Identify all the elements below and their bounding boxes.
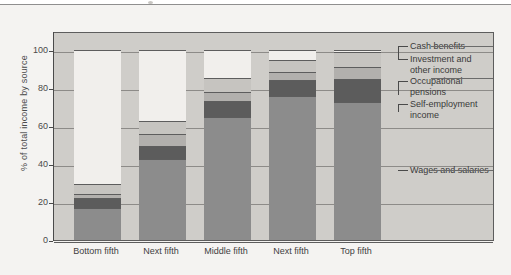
segment-occupational-pensions[interactable] xyxy=(139,134,186,146)
legend-label-cont: other income xyxy=(410,65,472,76)
segment-self-employment-income[interactable] xyxy=(74,198,121,208)
y-axis-title: % of total income by source xyxy=(19,33,29,193)
y-tick-label-60: 60 xyxy=(18,121,48,131)
bar-top-fifth-4[interactable] xyxy=(334,50,381,240)
x-label-4: Top fifth xyxy=(306,246,406,256)
segment-wages-and-salaries[interactable] xyxy=(204,117,251,241)
legend-item-1[interactable]: Investment andother income xyxy=(410,54,472,75)
legend-leader-line-3 xyxy=(398,104,408,105)
segment-self-employment-income[interactable] xyxy=(204,101,251,116)
segment-self-employment-income[interactable] xyxy=(139,146,186,159)
segment-wages-and-salaries[interactable] xyxy=(74,208,121,240)
y-tick-label-100: 100 xyxy=(18,45,48,55)
segment-investment-and-other-income[interactable] xyxy=(204,78,251,92)
legend-label-cont: income xyxy=(410,110,478,121)
legend-bracket-1 xyxy=(398,81,399,95)
legend-right-rule-1 xyxy=(431,78,493,79)
legend-label-cont: pensions xyxy=(410,87,463,98)
legend-bracket-2 xyxy=(398,104,399,112)
segment-wages-and-salaries[interactable] xyxy=(269,96,316,240)
legend-bracket-0 xyxy=(398,46,399,60)
segment-occupational-pensions[interactable] xyxy=(204,92,251,102)
legend-right-rule-2 xyxy=(431,170,493,171)
segment-investment-and-other-income[interactable] xyxy=(139,121,186,133)
segment-cash-benefits[interactable] xyxy=(74,50,121,184)
scan-rule-line xyxy=(0,4,511,5)
gridline-0 xyxy=(54,242,493,243)
legend-label: Investment and xyxy=(410,54,472,65)
segment-self-employment-income[interactable] xyxy=(269,80,316,95)
bar-next-fifth-3[interactable] xyxy=(269,50,316,240)
scan-artifact-speck xyxy=(148,1,153,4)
segment-occupational-pensions[interactable] xyxy=(74,194,121,198)
segment-investment-and-other-income[interactable] xyxy=(74,184,121,194)
legend-label: Self-employment xyxy=(410,99,478,110)
segment-cash-benefits[interactable] xyxy=(139,50,186,121)
segment-investment-and-other-income[interactable] xyxy=(269,60,316,71)
segment-self-employment-income[interactable] xyxy=(334,79,381,102)
bar-next-fifth-1[interactable] xyxy=(139,50,186,240)
segment-cash-benefits[interactable] xyxy=(334,50,381,52)
segment-wages-and-salaries[interactable] xyxy=(334,102,381,240)
legend-leader-line-0 xyxy=(398,46,408,47)
segment-occupational-pensions[interactable] xyxy=(269,72,316,81)
legend-leader-line-4 xyxy=(398,170,408,171)
legend-leader-line-2 xyxy=(398,81,408,82)
y-tick-label-0: 0 xyxy=(18,235,48,245)
y-tick-label-80: 80 xyxy=(18,83,48,93)
legend-right-rule-0 xyxy=(431,46,493,47)
legend-item-3[interactable]: Self-employmentincome xyxy=(410,99,478,120)
bar-middle-fifth-2[interactable] xyxy=(204,50,251,240)
y-tick-label-40: 40 xyxy=(18,159,48,169)
segment-cash-benefits[interactable] xyxy=(269,50,316,60)
y-axis-line xyxy=(53,32,54,241)
y-tick-label-20: 20 xyxy=(18,197,48,207)
legend-item-2[interactable]: Occupationalpensions xyxy=(410,76,463,97)
segment-investment-and-other-income[interactable] xyxy=(334,52,381,67)
segment-cash-benefits[interactable] xyxy=(204,50,251,78)
segment-occupational-pensions[interactable] xyxy=(334,67,381,79)
chart-page: % of total income by source 020406080100… xyxy=(0,0,511,275)
bar-bottom-fifth-0[interactable] xyxy=(74,50,121,240)
segment-wages-and-salaries[interactable] xyxy=(139,159,186,240)
legend-leader-line-1 xyxy=(398,59,408,60)
y-tick-mark-0 xyxy=(49,241,53,242)
